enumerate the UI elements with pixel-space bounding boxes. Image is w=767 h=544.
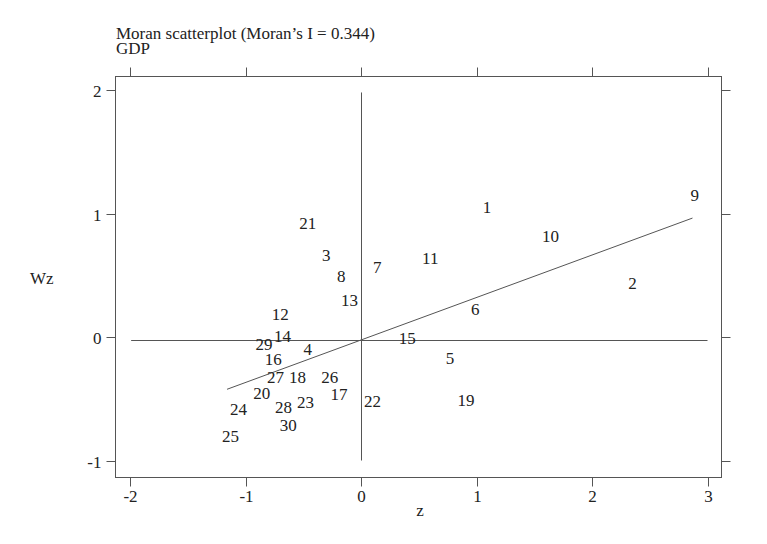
- x-tick-label: -1: [239, 487, 253, 506]
- regression-line: [227, 218, 692, 389]
- point-label: 6: [471, 300, 480, 319]
- point-labels: 1234567891011121314151617181920212223242…: [222, 186, 699, 446]
- point-label: 10: [542, 227, 559, 246]
- x-tick-label: 1: [473, 487, 482, 506]
- point-label: 8: [337, 267, 346, 286]
- point-label: 17: [331, 385, 349, 404]
- regression-line: [227, 218, 692, 389]
- point-label: 5: [446, 349, 455, 368]
- point-label: 25: [222, 427, 239, 446]
- point-label: 30: [280, 416, 297, 435]
- point-label: 18: [289, 368, 306, 387]
- point-label: 21: [299, 214, 316, 233]
- point-label: 3: [322, 246, 331, 265]
- point-label: 9: [691, 186, 700, 205]
- x-axis-label: z: [416, 501, 424, 520]
- x-tick-label: 0: [357, 487, 366, 506]
- point-label: 14: [274, 327, 292, 346]
- point-label: 7: [373, 258, 382, 277]
- point-label: 12: [272, 305, 289, 324]
- plot-area: -2-10123 -1012 1234567891011121314151617…: [0, 0, 767, 544]
- point-label: 4: [304, 340, 313, 359]
- point-label: 23: [297, 393, 314, 412]
- y-tick-label: 2: [93, 82, 102, 101]
- moran-scatterplot: Moran scatterplot (Moran’s I = 0.344) GD…: [0, 0, 767, 544]
- y-axis-label: Wz: [30, 269, 54, 288]
- y-tick-label: -1: [87, 453, 101, 472]
- point-label: 1: [483, 198, 492, 217]
- x-tick-label: -2: [123, 487, 137, 506]
- point-label: 22: [364, 392, 381, 411]
- point-label: 27: [267, 368, 285, 387]
- point-label: 19: [458, 391, 475, 410]
- x-tick-label: 2: [588, 487, 597, 506]
- point-label: 11: [422, 249, 438, 268]
- point-label: 15: [399, 329, 416, 348]
- point-label: 24: [230, 400, 248, 419]
- y-tick-label: 0: [93, 329, 102, 348]
- point-label: 29: [255, 335, 272, 354]
- point-label: 26: [321, 368, 338, 387]
- point-label: 2: [628, 274, 637, 293]
- y-tick-label: 1: [93, 206, 102, 225]
- x-axis: -2-10123: [123, 68, 712, 506]
- point-label: 28: [275, 398, 292, 417]
- x-tick-label: 3: [704, 487, 713, 506]
- reference-lines: [131, 92, 707, 460]
- point-label: 13: [341, 291, 358, 310]
